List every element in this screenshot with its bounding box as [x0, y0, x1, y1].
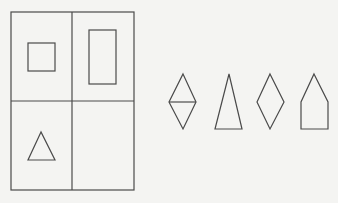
cell-bottom-right-empty[interactable]	[73, 102, 133, 189]
puzzle-figure	[0, 0, 338, 203]
cell-top-right-rectangle	[89, 30, 116, 84]
option-1-diamond-with-line[interactable]	[169, 74, 196, 129]
cell-top-left-square	[28, 43, 55, 71]
option-3-diamond[interactable]	[257, 74, 284, 129]
option-4-pentagon[interactable]	[301, 74, 328, 129]
option-2-tall-triangle[interactable]	[215, 74, 242, 129]
cell-bottom-left-triangle	[28, 132, 55, 160]
